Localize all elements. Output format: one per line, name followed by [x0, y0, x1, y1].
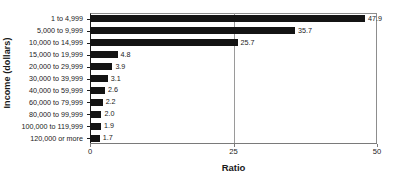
y-axis-title: Income (dollars) [0, 0, 14, 146]
bar [90, 111, 101, 118]
y-axis-tick-label: 20,000 to 29,999 [29, 61, 83, 72]
y-axis-tick [87, 90, 90, 91]
bar-value-label: 2.0 [104, 109, 114, 118]
y-axis-tick-label: 60,000 to 79,999 [29, 97, 83, 108]
y-axis-tick [87, 126, 90, 127]
y-axis-tick [87, 43, 90, 44]
bar [90, 75, 108, 82]
bar-value-label: 4.8 [121, 50, 131, 59]
bar [90, 15, 365, 22]
bar-value-label: 1.7 [103, 133, 113, 142]
y-axis-tick [87, 55, 90, 56]
bar [90, 123, 101, 130]
bar [90, 39, 238, 46]
y-axis-tick-label: 80,000 to 99,999 [29, 109, 83, 120]
x-axis-title: Ratio [90, 162, 377, 173]
bar [90, 99, 103, 106]
x-axis-tick-label: 25 [229, 147, 237, 156]
y-axis-tick-label: 15,000 to 19,999 [29, 49, 83, 60]
y-axis-tick-label: 1 to 4,999 [51, 13, 83, 24]
y-axis-tick [87, 114, 90, 115]
y-axis-tick-label: 40,000 to 59,999 [29, 85, 83, 96]
x-axis-tick-label: 50 [373, 147, 381, 156]
bar [90, 63, 112, 70]
y-axis-tick-labels: 1 to 4,9995,000 to 9,99910,000 to 14,999… [14, 13, 86, 144]
bar-value-label: 3.1 [111, 74, 121, 83]
y-axis-tick-label: 100,000 to 119,999 [22, 121, 83, 132]
y-axis-tick-label: 120,000 or more [30, 133, 83, 144]
y-axis-tick [87, 19, 90, 20]
y-axis-tick [87, 31, 90, 32]
y-axis-tick-label: 10,000 to 14,999 [29, 37, 83, 48]
bar-value-label: 47.9 [368, 14, 382, 23]
bar [90, 27, 295, 34]
x-axis-tick-label: 0 [88, 147, 92, 156]
y-axis-tick-label: 30,000 to 39,999 [29, 73, 83, 84]
y-axis-tick [87, 79, 90, 80]
y-axis-tick [87, 138, 90, 139]
bar-value-label: 3.9 [115, 62, 125, 71]
bar-value-label: 1.9 [104, 121, 114, 130]
bar [90, 51, 118, 58]
bar-value-label: 25.7 [241, 38, 255, 47]
bar [90, 87, 105, 94]
bar [90, 135, 100, 142]
bar-value-label: 2.2 [106, 97, 116, 106]
y-axis-tick [87, 102, 90, 103]
bar-value-label: 35.7 [298, 26, 312, 35]
bar-chart: Income (dollars) 1 to 4,9995,000 to 9,99… [0, 0, 398, 182]
y-axis-title-text: Income (dollars) [2, 37, 12, 108]
y-axis-tick [87, 67, 90, 68]
plot-area: 47.935.725.74.83.93.12.62.22.01.91.7 [90, 13, 377, 144]
y-axis-tick-label: 5,000 to 9,999 [37, 25, 83, 36]
bar-value-label: 2.6 [108, 85, 118, 94]
